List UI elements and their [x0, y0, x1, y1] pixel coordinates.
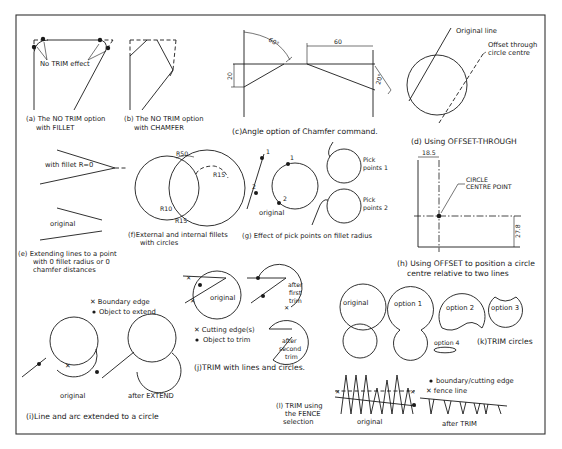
angle-20-label: 20°: [374, 73, 384, 85]
panel-c-chamfer-angle: 60° 60 20 (c)Angle option of Chamfer com…: [226, 30, 378, 136]
fence-x-icon: ✕: [410, 388, 415, 395]
offset-label-line2: circle centre: [488, 49, 530, 57]
cutting-x-icon: ✕: [186, 274, 191, 281]
option-1-label: option 1: [394, 300, 422, 308]
pick-dot-icon: [95, 370, 99, 374]
legend-boundary-l: boundary/cutting edge: [436, 377, 514, 385]
r50-label: R50: [176, 150, 188, 157]
caption-a-line2: with FILLET: [36, 124, 75, 132]
pick-dot-icon: [412, 403, 416, 407]
no-trim-annotation: No TRIM effect: [40, 60, 90, 68]
after-first-line2: first: [289, 289, 302, 296]
legend-boundary-i: ✕ Boundary edge: [90, 298, 150, 306]
pick-dot-icon: [41, 37, 45, 41]
g-point-1: 1: [266, 148, 270, 155]
after-extend-label: after EXTEND: [128, 392, 174, 400]
r15-top-label: R15: [213, 171, 225, 178]
option-2-label: option 2: [446, 304, 474, 312]
panel-j-trim-lines-circles: ✕ ✕ original ✕ after first trim after se…: [183, 264, 308, 372]
r15-bottom-label: R15: [175, 217, 187, 224]
caption-a-line1: (a) The NO TRIM option: [26, 115, 105, 123]
original-label-j: original: [210, 294, 236, 302]
legend-dot-icon: [195, 338, 198, 341]
after-second-line1: after: [282, 337, 297, 344]
pick-dot-icon: [256, 276, 260, 280]
after-second-line2: second: [279, 345, 301, 352]
after-trim-label: after TRIM: [442, 420, 477, 428]
panel-g-pick-points: 1 2 1 2 original Pick points 1 Pick poin…: [242, 142, 388, 240]
original-line-label: Original line: [456, 27, 497, 35]
caption-i: (i)Line and arc extended to a circle: [26, 412, 159, 421]
caption-f-line2: with circles: [140, 239, 179, 247]
caption-b-line1: (b) The NO TRIM option: [124, 115, 204, 123]
original-label-g: original: [259, 209, 285, 217]
r10-label: R10: [160, 205, 172, 212]
legend-fence-line: ✕ fence line: [426, 387, 467, 395]
panel-l-trim-fence: (l) TRIM using the FENCE selection ✕ ✕ o…: [276, 375, 514, 428]
circle-centre-dot-icon: [437, 214, 442, 219]
caption-h-line2: centre relative to two lines: [407, 269, 509, 278]
chamfer-length-label: 60: [334, 38, 342, 45]
pick-dot-icon: [37, 362, 41, 366]
pick-points-2-line1: Pick: [363, 196, 376, 203]
pick-dot-icon: [106, 46, 110, 50]
pick-dot-icon: [98, 38, 102, 42]
pick-points-2-line2: points 2: [363, 204, 388, 212]
option-3-label: option 3: [491, 304, 519, 312]
panel-b-chamfer-no-trim: (b) The NO TRIM option with CHAMFER: [124, 40, 204, 132]
caption-b-line2: with CHAMFER: [134, 124, 184, 132]
cutting-x-icon: ✕: [190, 297, 195, 304]
legend-dot-icon: [92, 310, 95, 313]
legend-cutting-edges: ✕ Cutting edge(s): [194, 326, 255, 334]
circle-centre-label-line2: CENTRE POINT: [466, 183, 512, 190]
original-label-e: original: [50, 220, 76, 228]
caption-h-line1: (h) Using OFFSET to position a circle: [397, 259, 535, 268]
panel-i-extend-circle: ✕ Boundary edge Object to extend ✕ origi…: [22, 298, 181, 421]
offset-label-line1: Offset through: [488, 41, 537, 49]
boundary-x-icon: ✕: [65, 362, 71, 370]
caption-l-line2: the FENCE: [285, 410, 321, 418]
caption-e-line3: chamfer distances: [33, 266, 96, 274]
caption-j: (j)TRIM with lines and circles.: [194, 363, 305, 372]
panel-f-fillets-circles: R50 R15 R10 R15 (f)External and internal…: [128, 150, 245, 247]
pick-dot-icon: [286, 162, 290, 166]
after-second-line3: trim: [285, 353, 298, 360]
pick-dot-icon: [254, 191, 258, 195]
pick-dot-icon: [32, 45, 36, 49]
original-label-k: original: [343, 299, 369, 307]
panel-e-extend-lines: with fillet R=0 original (e) Extending l…: [18, 150, 128, 274]
caption-l-line1: (l) TRIM using: [276, 402, 323, 410]
autocad-editing-figure: No TRIM effect (a) The NO TRIM option wi…: [0, 0, 562, 449]
caption-l-line3: selection: [283, 418, 314, 426]
legend-object-trim: Object to trim: [203, 336, 251, 344]
dim-27-8-label: 27.8: [514, 224, 521, 238]
pick-dot-icon: [260, 156, 264, 160]
panel-d-offset-through: 20° Original line Offset through circle …: [374, 27, 537, 146]
original-label-l: original: [357, 418, 383, 426]
g-point-2: 2: [252, 183, 256, 190]
caption-g: (g) Effect of pick points on fillet radi…: [242, 232, 372, 240]
pick-dot-icon: [198, 283, 202, 287]
pick-dot-icon: [261, 294, 265, 298]
caption-e-line1: (e) Extending lines to a point: [18, 250, 117, 258]
fence-x-icon: ✕: [335, 388, 340, 395]
pick-points-1-line1: Pick: [363, 156, 376, 163]
fillet-r0-label: with fillet R=0: [45, 161, 93, 169]
after-first-line1: after: [288, 281, 303, 288]
panel-h-offset-position: 18.5 27.8 CIRCLE CENTRE POINT (h) Using …: [397, 149, 535, 278]
pick-points-1-line2: points 1: [363, 164, 388, 172]
after-first-line3: trim: [289, 297, 302, 304]
caption-c: (c)Angle option of Chamfer command.: [232, 127, 378, 136]
g-point-1b: 1: [290, 154, 294, 161]
panel-a-fillet-no-trim: No TRIM effect (a) The NO TRIM option wi…: [26, 37, 113, 132]
circle-centre-label-line1: CIRCLE: [466, 176, 488, 183]
caption-f-line1: (f)External and internal fillets: [128, 231, 228, 239]
caption-d: (d) Using OFFSET-THROUGH: [411, 137, 517, 146]
chamfer-height-label: 20: [226, 72, 233, 80]
dim-18-5-label: 18.5: [422, 149, 436, 156]
original-label-i: original: [60, 392, 86, 400]
legend-dot-icon: [429, 379, 432, 382]
caption-e-line2: with 0 fillet radius or 0: [33, 258, 110, 266]
pick-dot-icon: [277, 201, 281, 205]
caption-k: (k)TRIM circles: [477, 337, 533, 346]
